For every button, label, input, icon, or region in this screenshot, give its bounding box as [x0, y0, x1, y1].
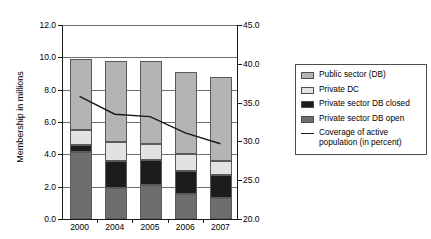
legend-item-label: Private sector DB open	[319, 114, 404, 124]
y-axis-left-label: 2.0	[22, 182, 56, 192]
chart-figure: Membership in millions Percent Public se…	[0, 0, 431, 239]
y-axis-right-label: 20.0	[243, 214, 277, 224]
x-axis-label: 2007	[200, 222, 240, 232]
y-axis-right-label: 35.0	[243, 98, 277, 108]
chart-legend: Public sector (DB)Private DCPrivate sect…	[295, 64, 427, 155]
y-axis-left-label: 6.0	[22, 117, 56, 127]
legend-item-label: Private DC	[319, 85, 359, 95]
y-axis-right-label: 25.0	[243, 175, 277, 185]
y-axis-right-label: 40.0	[243, 59, 277, 69]
x-axis-label: 2000	[60, 222, 100, 232]
x-axis-label: 2004	[95, 222, 135, 232]
y-axis-left-label: 10.0	[22, 52, 56, 62]
x-axis-line	[62, 219, 238, 220]
legend-swatch-coverage-line	[301, 130, 314, 137]
legend-item[interactable]: Private DC	[301, 85, 422, 95]
y-axis-left-label: 12.0	[22, 20, 56, 30]
y-axis-left-label: 8.0	[22, 85, 56, 95]
legend-swatch-private-dc	[301, 87, 314, 94]
legend-item[interactable]: Coverage of active population (in percen…	[301, 128, 422, 147]
y-axis-right-label: 30.0	[243, 136, 277, 146]
legend-item[interactable]: Public sector (DB)	[301, 70, 422, 80]
x-axis-label: 2006	[165, 222, 205, 232]
legend-item-label: Coverage of active population (in percen…	[319, 128, 422, 147]
y-axis-left-label: 4.0	[22, 149, 56, 159]
legend-swatch-public-sector-db	[301, 72, 314, 79]
coverage-line-series	[62, 25, 238, 219]
x-axis-label: 2005	[130, 222, 170, 232]
legend-item-label: Public sector (DB)	[319, 70, 386, 80]
legend-item[interactable]: Private sector DB open	[301, 114, 422, 124]
legend-swatch-private-db-closed	[301, 101, 314, 108]
y-axis-left-label: 0.0	[22, 214, 56, 224]
legend-item-label: Private sector DB closed	[319, 99, 410, 109]
legend-swatch-private-db-open	[301, 116, 314, 123]
legend-item[interactable]: Private sector DB closed	[301, 99, 422, 109]
y-axis-right-label: 45.0	[243, 20, 277, 30]
